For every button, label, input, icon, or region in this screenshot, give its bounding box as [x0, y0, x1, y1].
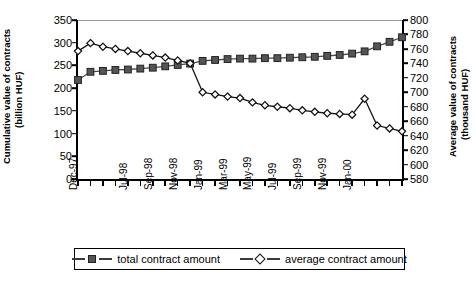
x-tick-label: Sep-98: [142, 158, 153, 190]
x-tick: [376, 181, 378, 186]
y-tick-label-left: 350: [40, 14, 72, 26]
y-tick-right: [403, 178, 408, 180]
right-axis-title-line2: (thousand HUF): [459, 68, 470, 139]
y-tick-label-right: 640: [410, 130, 428, 142]
y-tick-right: [403, 19, 408, 21]
y-tick-left: [72, 42, 77, 44]
legend-line-average-2: [267, 258, 280, 260]
legend: total contract amount average contract a…: [74, 248, 405, 270]
legend-item-total: total contract amount: [72, 253, 220, 265]
y-tick-label-left: 100: [40, 128, 72, 140]
x-tick-label: Jan-00: [342, 159, 353, 190]
x-tick: [339, 181, 341, 186]
x-tick-label: Dec-97: [68, 158, 79, 190]
legend-line-average: [240, 258, 253, 260]
y-tick-label-left: 200: [40, 82, 72, 94]
y-tick-right: [403, 106, 408, 108]
x-tick-label: Mar-99: [217, 158, 228, 190]
y-tick-label-right: 720: [410, 72, 428, 84]
x-tick: [389, 181, 391, 186]
y-tick-left: [72, 65, 77, 67]
left-axis-title-line2: (billion HUF): [13, 72, 24, 128]
x-tick-label: Jan-99: [192, 159, 203, 190]
y-tick-label-right: 800: [410, 14, 428, 26]
open-diamond-icon: [254, 253, 265, 264]
y-tick-left: [72, 19, 77, 21]
x-tick-label: Nov-98: [167, 158, 178, 190]
y-tick-right: [403, 77, 408, 79]
left-axis-title: Cumulative value of contracts: [2, 6, 13, 186]
y-tick-label-left: 300: [40, 37, 72, 49]
x-tick: [164, 181, 166, 186]
x-tick-label: Sep-99: [292, 158, 303, 190]
legend-line-total: [72, 258, 85, 260]
x-tick: [401, 181, 403, 186]
x-tick-label: Jul-98: [117, 163, 128, 190]
right-axis-title-line1: Average value of contracts: [447, 35, 458, 156]
x-tick: [189, 181, 191, 186]
legend-label-total: total contract amount: [117, 253, 220, 265]
y-tick-left: [72, 110, 77, 112]
y-tick-label-right: 760: [410, 43, 428, 55]
x-tick: [289, 181, 291, 186]
y-tick-right: [403, 135, 408, 137]
x-tick: [314, 181, 316, 186]
y-tick-right: [403, 120, 408, 122]
y-tick-label-right: 700: [410, 86, 428, 98]
filled-square-icon: [88, 255, 96, 263]
legend-item-average: average contract amount: [240, 253, 407, 265]
y-tick-right: [403, 149, 408, 151]
x-tick: [115, 181, 117, 186]
y-tick-label-left: 150: [40, 105, 72, 117]
y-tick-right: [403, 34, 408, 36]
x-tick: [140, 181, 142, 186]
x-tick-label: Jul-99: [267, 163, 278, 190]
y-tick-label-right: 620: [410, 144, 428, 156]
y-tick-label-right: 740: [410, 57, 428, 69]
x-tick: [264, 181, 266, 186]
legend-line-total-2: [99, 258, 112, 260]
y-tick-left: [72, 87, 77, 89]
x-tick-label: Nov-99: [317, 158, 328, 190]
y-tick-label-right: 600: [410, 159, 428, 171]
plot-area: [76, 20, 404, 181]
y-tick-label-right: 680: [410, 101, 428, 113]
y-tick-label-right: 580: [410, 173, 428, 185]
left-axis-title-units: (billion HUF): [14, 30, 25, 170]
right-axis-title-units: (thousand HUF): [460, 34, 471, 174]
y-tick-right: [403, 91, 408, 93]
left-axis-title-line1: Cumulative value of contracts: [1, 28, 12, 163]
y-tick-label-right: 660: [410, 115, 428, 127]
legend-label-average: average contract amount: [285, 253, 407, 265]
y-tick-label-right: 780: [410, 28, 428, 40]
x-tick-label: May-99: [242, 157, 253, 190]
y-tick-right: [403, 48, 408, 50]
x-tick: [214, 181, 216, 186]
y-tick-left: [72, 133, 77, 135]
y-tick-label-left: 250: [40, 59, 72, 71]
x-tick: [102, 181, 104, 186]
chart-figure: Cumulative value of contracts (billion H…: [0, 0, 476, 283]
y-tick-right: [403, 164, 408, 166]
x-tick: [90, 181, 92, 186]
y-tick-right: [403, 63, 408, 65]
x-tick: [364, 181, 366, 186]
